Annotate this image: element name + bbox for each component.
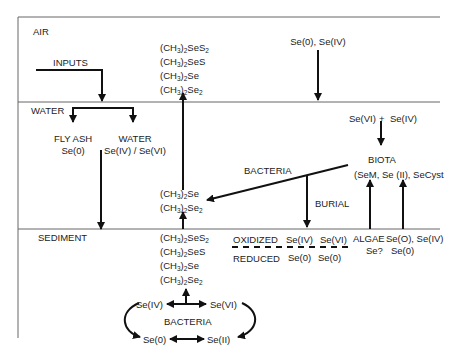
algae-species-top: Se(O), Se(IV) (386, 233, 444, 244)
methyl-water-2: (CH3)2Se2 (160, 201, 203, 215)
methyl-air-1: (CH3)2SeS2 (160, 41, 209, 55)
inputs-arrow (36, 70, 102, 101)
ox-se-vi: Se(VI) (320, 234, 347, 245)
cycle-se-0: Se(0) (143, 334, 166, 345)
methyl-sed-3: (CH3)2Se (160, 259, 209, 273)
methyl-water-1: (CH3)2Se (160, 187, 203, 201)
algae-se0: Se(0) (391, 245, 414, 256)
biota-species: (SeM, Se (II), SeCyst (354, 169, 444, 180)
bacteria-water-label: BACTERIA (244, 165, 292, 176)
methyl-sed-2: (CH3)2SeS (160, 245, 209, 259)
biota-input-right: Se(IV) (390, 113, 417, 124)
methyl-water-list: (CH3)2Se (CH3)2Se2 (160, 187, 203, 215)
methyl-air-4: (CH3)2Se2 (160, 83, 209, 97)
water-label: WATER (118, 133, 151, 144)
zone-label-air: AIR (33, 26, 49, 37)
red-se0-a: Se(0) (288, 252, 311, 263)
methyl-sed-1: (CH3)2SeS2 (160, 231, 209, 245)
methyl-sed-4: (CH3)2Se2 (160, 273, 209, 287)
methyl-sediment-list: (CH3)2SeS2 (CH3)2SeS (CH3)2Se (CH3)2Se2 (160, 231, 209, 287)
split-line (73, 108, 133, 121)
inputs-label: INPUTS (53, 57, 88, 68)
cycle-se-vi: Se(VI) (210, 299, 237, 310)
red-se0-b: Se(0) (318, 252, 341, 263)
water-species: Se(IV) / Se(VI) (104, 145, 166, 156)
fly-ash-species: Se(0) (61, 145, 84, 156)
burial-label: BURIAL (315, 198, 349, 209)
reduced-label: REDUCED (233, 253, 280, 264)
fly-ash-label: FLY ASH (54, 133, 92, 144)
algae-se-q: Se? (366, 245, 383, 256)
cycle-se-ii: Se(II) (207, 334, 230, 345)
zone-label-sediment: SEDIMENT (38, 232, 87, 243)
biota-input-plus: + (379, 113, 385, 124)
biota-label: BIOTA (368, 154, 396, 165)
cycle-se-iv: Se(IV) (136, 299, 163, 310)
methyl-air-3: (CH3)2Se (160, 69, 209, 83)
biota-input-left: Se(VI) (349, 113, 376, 124)
methyl-air-2: (CH3)2SeS (160, 55, 209, 69)
methyl-air-list: (CH3)2SeS2 (CH3)2SeS (CH3)2Se (CH3)2Se2 (160, 41, 209, 97)
bacteria-cycle-label: BACTERIA (164, 316, 212, 327)
ox-se-iv: Se(IV) (286, 234, 313, 245)
zone-label-water: WATER (31, 105, 64, 116)
air-deposition-label: Se(0), Se(IV) (290, 36, 345, 47)
algae-label: ALGAE (353, 233, 385, 244)
oxidized-label: OXIDIZED (233, 234, 278, 245)
